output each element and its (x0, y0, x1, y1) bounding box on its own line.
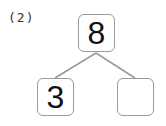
bottom-left-number-box: 3 (37, 78, 74, 116)
top-number-box: 8 (78, 14, 115, 52)
top-number: 8 (88, 17, 106, 49)
right-branch-line (96, 53, 135, 78)
bottom-left-number: 3 (47, 81, 65, 113)
left-branch-line (55, 53, 96, 78)
bottom-right-answer-box[interactable] (117, 78, 154, 116)
